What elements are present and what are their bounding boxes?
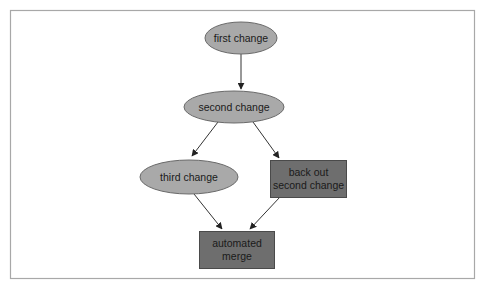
node-second-change: second change: [184, 91, 284, 123]
node-back-out-second-change: back out second change: [271, 161, 347, 198]
node-third-change: third change: [140, 160, 238, 194]
node-first-change: first change: [205, 22, 277, 54]
node-label-line-1: back out: [289, 166, 329, 178]
node-label: first change: [214, 32, 268, 44]
node-label: third change: [160, 171, 218, 183]
node-label-line-2: second change: [273, 179, 344, 191]
node-label-line-2: merge: [222, 250, 252, 262]
node-label: second change: [198, 101, 269, 113]
node-label-line-1: automated: [212, 237, 262, 249]
node-automated-merge: automated merge: [200, 232, 275, 269]
diagram-canvas: first change second change third change …: [0, 0, 484, 286]
